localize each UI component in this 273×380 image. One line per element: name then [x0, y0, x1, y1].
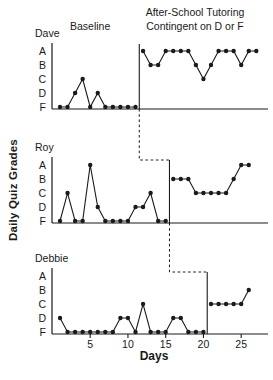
treatment-point: [209, 63, 213, 67]
baseline-point: [126, 219, 130, 223]
treatment-point: [194, 191, 198, 195]
treatment-condition-label: After-School Tutoring Contingent on D or…: [118, 6, 272, 33]
multiple-baseline-figure: DaveABCDFRoyABCDFDebbieABCDF510152025 Da…: [0, 0, 273, 380]
baseline-point: [186, 330, 190, 334]
baseline-point: [96, 205, 100, 209]
treatment-point: [231, 177, 235, 181]
baseline-point: [58, 219, 62, 223]
grade-label: A: [39, 159, 46, 171]
baseline-point: [103, 105, 107, 109]
grade-label: C: [38, 298, 46, 310]
treatment-point: [239, 63, 243, 67]
grade-label: D: [38, 201, 46, 213]
grade-label: C: [38, 187, 46, 199]
treatment-point: [216, 302, 220, 306]
phase-line-dashed: [139, 109, 169, 160]
baseline-point: [164, 330, 168, 334]
grade-label: B: [39, 59, 46, 71]
baseline-point: [126, 316, 130, 320]
day-tick-label: 5: [87, 338, 93, 350]
baseline-point: [194, 330, 198, 334]
treatment-point: [224, 191, 228, 195]
grade-label: F: [40, 101, 46, 113]
baseline-point: [73, 91, 77, 95]
baseline-condition-label: Baseline: [70, 20, 110, 32]
baseline-point: [133, 205, 137, 209]
baseline-point: [118, 219, 122, 223]
baseline-point: [111, 330, 115, 334]
baseline-point: [133, 330, 137, 334]
y-axis-title: Daily Quiz Grades: [7, 139, 19, 241]
treatment-point: [156, 63, 160, 67]
baseline-point: [111, 105, 115, 109]
subject-name: Debbie: [35, 252, 68, 264]
grade-label: C: [38, 73, 46, 85]
treatment-point: [179, 177, 183, 181]
baseline-point: [88, 105, 92, 109]
treatment-point: [224, 49, 228, 53]
grade-label: B: [39, 173, 46, 185]
baseline-point: [88, 163, 92, 167]
treatment-point: [141, 49, 145, 53]
baseline-point: [80, 219, 84, 223]
treatment-point: [247, 288, 251, 292]
phase-change-line: [139, 44, 207, 334]
treatment-point: [171, 49, 175, 53]
baseline-point: [156, 219, 160, 223]
treatment-point: [209, 302, 213, 306]
treatment-point: [179, 49, 183, 53]
baseline-point: [103, 330, 107, 334]
treatment-point: [239, 163, 243, 167]
baseline-point: [156, 330, 160, 334]
panel-debbie: DebbieABCDF: [35, 252, 268, 338]
treatment-point: [224, 302, 228, 306]
baseline-point: [201, 330, 205, 334]
phase-line-dashed: [169, 223, 207, 272]
subject-name: Dave: [35, 27, 60, 39]
treatment-point: [209, 191, 213, 195]
grade-label: D: [38, 312, 46, 324]
grade-label: F: [40, 326, 46, 338]
baseline-point: [118, 105, 122, 109]
baseline-point: [141, 205, 145, 209]
grade-label: A: [39, 45, 46, 57]
grade-label: B: [39, 284, 46, 296]
treatment-point: [194, 63, 198, 67]
baseline-point: [73, 330, 77, 334]
baseline-point: [179, 316, 183, 320]
x-axis-title: Days: [112, 349, 196, 363]
grade-label: A: [39, 270, 46, 282]
baseline-point: [96, 91, 100, 95]
treatment-point: [201, 191, 205, 195]
baseline-point: [65, 191, 69, 195]
baseline-point: [65, 330, 69, 334]
grade-label: D: [38, 87, 46, 99]
baseline-point: [126, 105, 130, 109]
baseline-point: [141, 302, 145, 306]
baseline-point: [111, 219, 115, 223]
panel-dave: DaveABCDF: [35, 27, 268, 113]
subject-name: Roy: [35, 141, 54, 153]
day-ticks: 510152025: [87, 334, 247, 350]
chart-canvas: DaveABCDFRoyABCDFDebbieABCDF510152025: [0, 0, 273, 380]
treatment-point: [239, 302, 243, 306]
treatment-point: [247, 49, 251, 53]
treatment-line: [211, 290, 249, 304]
baseline-point: [73, 219, 77, 223]
treatment-point: [254, 49, 258, 53]
treatment-condition-line1: After-School Tutoring: [118, 6, 272, 20]
treatment-point: [171, 177, 175, 181]
treatment-point: [164, 49, 168, 53]
baseline-point: [133, 105, 137, 109]
baseline-point: [96, 330, 100, 334]
treatment-condition-line2: Contingent on D or F: [118, 20, 272, 34]
day-tick-label: 25: [235, 338, 247, 350]
treatment-point: [216, 191, 220, 195]
treatment-point: [148, 63, 152, 67]
treatment-point: [231, 49, 235, 53]
treatment-point: [201, 77, 205, 81]
baseline-point: [118, 316, 122, 320]
treatment-point: [216, 49, 220, 53]
treatment-point: [186, 177, 190, 181]
baseline-point: [80, 77, 84, 81]
